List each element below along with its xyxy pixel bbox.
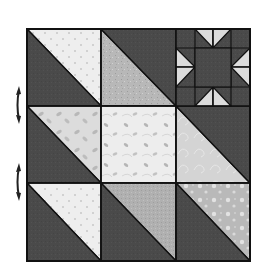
- sawtooth-star-block: [176, 29, 250, 106]
- light-print-square: [101, 106, 176, 183]
- rotate-arrow-icon-row2: [16, 163, 21, 201]
- cell-r2c1-half-square-triangle: [27, 106, 101, 183]
- cell-r3c2-half-square-triangle: [101, 183, 176, 261]
- cell-r3c1-half-square-triangle: [27, 183, 101, 261]
- cell-r2c2-solid-square: [101, 106, 176, 183]
- quilt-block-diagram: [0, 0, 266, 278]
- rotation-arrows: [16, 86, 21, 201]
- rotate-arrow-icon-row1: [16, 86, 21, 124]
- star-center-square: [195, 48, 231, 87]
- cell-r1c2-half-square-triangle: [101, 29, 176, 106]
- cell-r3c3-half-square-triangle: [176, 183, 250, 261]
- cell-r1c1-half-square-triangle: [27, 29, 101, 106]
- cell-r2c3-half-square-triangle: [176, 106, 250, 183]
